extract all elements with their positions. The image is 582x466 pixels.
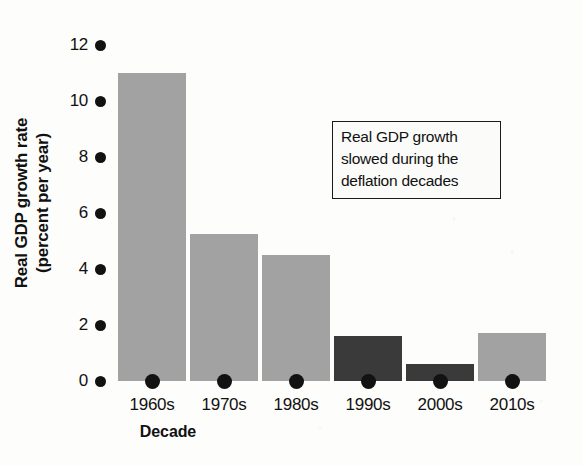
x-axis-tick-dot-marker — [433, 374, 448, 389]
x-axis-title: Decade — [118, 423, 218, 441]
bar-1960s — [118, 73, 186, 381]
x-axis-tick-label: 1980s — [256, 395, 336, 415]
x-axis-tick-dot-marker — [505, 374, 520, 389]
annotation-line-1: Real GDP growth — [341, 126, 493, 148]
x-axis-tick-dot-marker — [217, 374, 232, 389]
x-axis-tick-label: 1960s — [112, 395, 192, 415]
x-axis-tick-label: 1970s — [184, 395, 264, 415]
bar-1980s — [262, 255, 330, 381]
x-axis-tick-label: 1990s — [328, 395, 408, 415]
x-axis-tick-dot-marker — [289, 374, 304, 389]
plot-area: 1960s1970s1980s1990s2000s2010s — [0, 0, 582, 466]
x-axis-tick-dot-marker — [145, 374, 160, 389]
bar-1970s — [190, 234, 258, 381]
bar-chart-figure: Real GDP growth rate (percent per year) … — [0, 0, 582, 466]
x-axis-tick-label: 2000s — [400, 395, 480, 415]
x-axis-tick-dot-marker — [361, 374, 376, 389]
annotation-line-3: deflation decades — [341, 170, 493, 192]
annotation-line-2: slowed during the — [341, 148, 493, 170]
annotation-callout: Real GDP growth slowed during the deflat… — [332, 121, 501, 199]
x-axis-tick-label: 2010s — [472, 395, 552, 415]
